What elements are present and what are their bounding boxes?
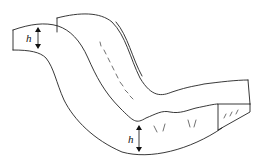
texture-marks [100,42,238,132]
lower-height-dimension: h [128,125,142,152]
lower-height-label: h [128,133,134,145]
upper-height-dimension: h [26,27,41,49]
back-strip [57,14,250,104]
curved-channel-diagram: h h [0,0,262,165]
upper-height-label: h [26,32,32,44]
